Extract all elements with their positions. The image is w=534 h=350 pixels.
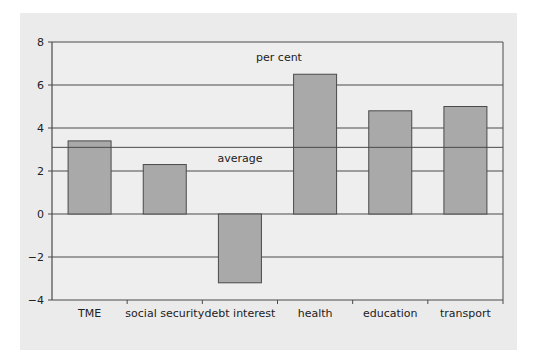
y-tick-label: 4 <box>37 122 44 135</box>
x-category-label: debt interest <box>205 307 276 320</box>
bar-social-security <box>143 165 186 214</box>
y-tick-label: 6 <box>37 79 44 92</box>
bar-debt-interest <box>218 214 261 283</box>
x-category-label: transport <box>440 307 492 320</box>
bar-transport <box>444 107 487 215</box>
y-unit-label: per cent <box>256 51 303 64</box>
x-category-label: health <box>298 307 333 320</box>
x-category-label: social security <box>125 307 204 320</box>
x-category-label: education <box>363 307 418 320</box>
y-axis-ticks: −4−202468 <box>28 36 52 307</box>
bar-chart: −4−202468 TMEsocial securitydebt interes… <box>0 0 534 350</box>
y-tick-label: 0 <box>37 208 44 221</box>
bar-health <box>294 74 337 214</box>
average-label: average <box>217 152 262 165</box>
y-tick-label: −2 <box>28 251 44 264</box>
y-tick-label: 8 <box>37 36 44 49</box>
bar-education <box>369 111 412 214</box>
x-category-label: TME <box>77 307 101 320</box>
y-tick-label: 2 <box>37 165 44 178</box>
bar-tme <box>68 141 111 214</box>
x-axis-ticks: TMEsocial securitydebt interesthealthedu… <box>77 300 503 320</box>
y-tick-label: −4 <box>28 294 44 307</box>
